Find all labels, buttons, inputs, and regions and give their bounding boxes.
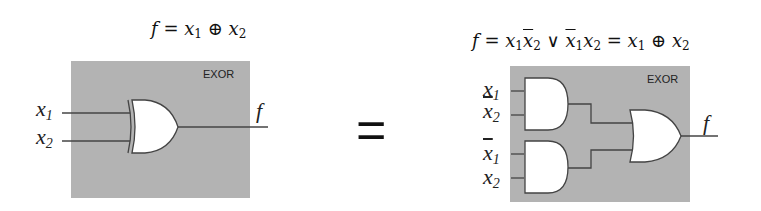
right-or-gate-icon [0, 0, 761, 211]
